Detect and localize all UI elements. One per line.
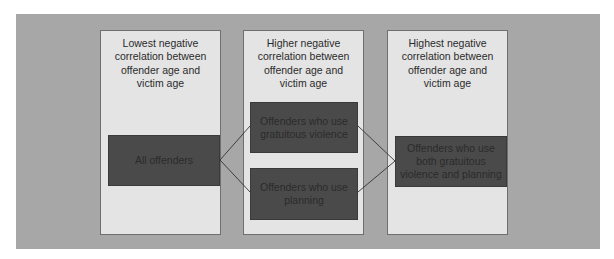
box-both-violence-and-planning: Offenders who use both gratuitous violen… — [395, 136, 507, 187]
box-label: Offenders who use — [260, 115, 348, 128]
box-planning: Offenders who use planning — [250, 168, 358, 220]
panel-title: Highest negative correlation between off… — [388, 37, 507, 90]
box-label: planning — [260, 194, 348, 207]
title-line: offender age and — [244, 64, 363, 77]
box-gratuitous-violence: Offenders who use gratuitous violence — [250, 102, 358, 153]
box-all-offenders: All offenders — [108, 135, 220, 186]
title-line: Highest negative — [388, 37, 507, 50]
panel-lowest-correlation: Lowest negative correlation between offe… — [100, 30, 221, 235]
title-line: offender age and — [101, 64, 220, 77]
title-line: offender age and — [388, 64, 507, 77]
box-label: both gratuitous — [400, 155, 502, 168]
title-line: correlation between — [244, 50, 363, 63]
box-label: violence and planning — [400, 168, 502, 181]
title-line: correlation between — [101, 50, 220, 63]
box-label: gratuitous violence — [260, 128, 348, 141]
box-label: All offenders — [135, 154, 193, 167]
title-line: victim age — [388, 77, 507, 90]
title-line: Lowest negative — [101, 37, 220, 50]
box-label: Offenders who use — [260, 181, 348, 194]
title-line: victim age — [101, 77, 220, 90]
panel-highest-correlation: Highest negative correlation between off… — [387, 30, 508, 235]
panel-title: Higher negative correlation between offe… — [244, 37, 363, 90]
title-line: correlation between — [388, 50, 507, 63]
title-line: Higher negative — [244, 37, 363, 50]
box-label: Offenders who use — [400, 142, 502, 155]
panel-title: Lowest negative correlation between offe… — [101, 37, 220, 90]
title-line: victim age — [244, 77, 363, 90]
